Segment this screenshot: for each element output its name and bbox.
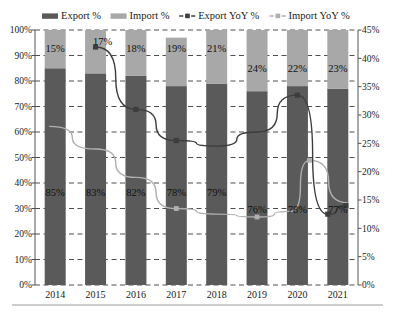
y-axis-left-tick: 60% [15,127,33,137]
bar-segment-export [287,86,308,285]
bar-segment-export [327,89,348,285]
legend-label: Export YoY % [198,10,259,21]
bar-segment-export [206,84,227,285]
bar-segment-import [247,30,268,91]
data-label-export: 76% [247,204,267,215]
data-label-export: 85% [46,187,66,198]
legend-label: Import % [130,10,170,21]
x-axis-tick: 2014 [45,289,65,300]
x-axis-tick: 2018 [207,289,227,300]
data-label-export: 77% [328,204,348,215]
data-label-import: 18% [126,43,146,54]
y-axis-right-tick: 10% [362,224,380,234]
data-label-import: 19% [167,43,187,54]
line-marker-export-yoy [174,138,179,143]
line-marker-export-yoy [295,93,300,98]
bar-segment-import [206,30,227,84]
chart-container: Export %Import %Export YoY %Import YoY %… [0,0,395,317]
y-axis-right-tick: 20% [362,167,380,177]
y-axis-right-tick: 30% [362,110,380,120]
bar-segment-import [327,30,348,89]
legend-marker [276,14,281,19]
y-axis-left-tick: 40% [15,178,33,188]
legend-swatch [111,13,127,18]
line-marker-import-yoy [174,206,179,211]
line-marker-import-yoy [255,215,260,220]
data-label-import: 23% [328,63,348,74]
data-label-export: 78% [288,204,308,215]
data-label-export: 79% [207,187,227,198]
data-label-export: 78% [167,187,187,198]
x-axis-tick: 2020 [287,289,307,300]
line-marker-export-yoy [133,107,138,112]
y-axis-right-tick: 5% [362,252,375,262]
y-axis-left-tick: 90% [15,51,33,61]
data-label-import: 15% [46,43,66,54]
x-axis-tick: 2021 [328,289,348,300]
y-axis-left-tick: 20% [15,229,33,239]
x-axis-tick: 2019 [247,289,267,300]
data-label-export: 82% [126,187,146,198]
y-axis-left-tick: 10% [15,255,33,265]
y-axis-right-tick: 40% [362,54,380,64]
bar-segment-export [85,73,106,285]
bar-segment-import [287,30,308,86]
bar-segment-export [247,91,268,285]
y-axis-left-tick: 30% [15,204,33,214]
data-label-import: 17% [93,36,113,47]
y-axis-left-tick: 80% [15,76,33,86]
x-axis-tick: 2015 [86,289,106,300]
y-axis-right-tick: 25% [362,139,380,149]
y-axis-right-tick: 0% [362,280,375,290]
y-axis-right-tick: 15% [362,195,380,205]
legend-swatch [42,13,58,18]
y-axis-left-tick: 50% [15,153,33,163]
y-axis-left-tick: 0% [19,280,32,290]
data-label-export: 83% [86,187,106,198]
line-marker-import-yoy [307,158,312,163]
y-axis-right-tick: 35% [362,82,380,92]
x-axis-tick: 2016 [126,289,146,300]
x-axis-tick: 2017 [166,289,186,300]
data-label-import: 21% [207,43,227,54]
y-axis-left-tick: 70% [15,102,33,112]
y-axis-left-tick: 100% [10,25,32,35]
data-label-import: 22% [288,63,308,74]
bar-segment-export [45,68,66,285]
legend-marker [185,14,190,19]
combo-chart: Export %Import %Export YoY %Import YoY %… [0,0,395,317]
data-label-import: 24% [247,63,267,74]
y-axis-right-tick: 45% [362,25,380,35]
legend-label: Export % [61,10,101,21]
bar-segment-export [166,86,187,285]
legend-label: Import YoY % [289,10,350,21]
